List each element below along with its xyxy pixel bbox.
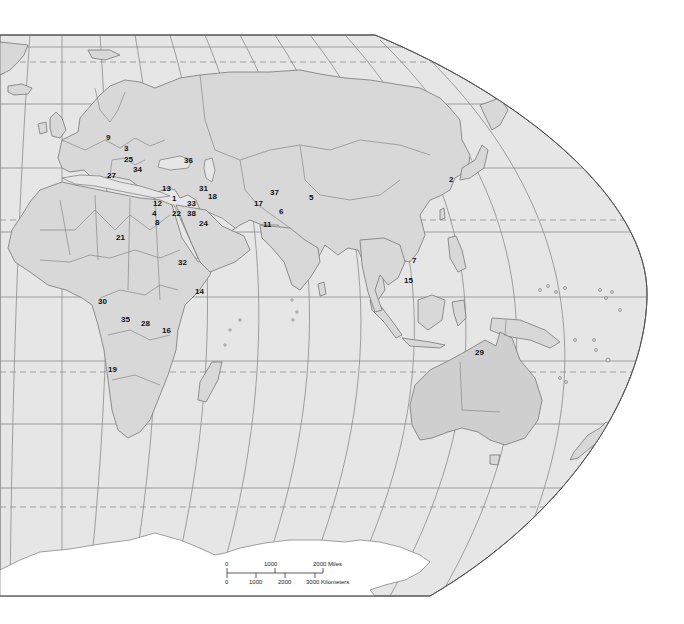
map-label-5: 5 [309, 193, 314, 202]
map-label-16: 16 [162, 326, 171, 335]
scale-km-2000: 2000 [278, 579, 292, 585]
map-label-31: 31 [199, 184, 208, 193]
scale-km-3000: 3000 Kilometers [306, 579, 349, 585]
map-label-36: 36 [184, 156, 193, 165]
map-label-28: 28 [141, 319, 150, 328]
map-label-21: 21 [116, 233, 125, 242]
ireland-landmass [38, 122, 47, 134]
map-label-32: 32 [178, 258, 187, 267]
map-label-24: 24 [199, 219, 208, 228]
map-label-13: 13 [162, 184, 171, 193]
taiwan-landmass [440, 208, 445, 220]
map-label-11: 11 [263, 220, 272, 229]
map-label-34: 34 [133, 165, 142, 174]
map-label-17: 17 [254, 199, 263, 208]
map-label-9: 9 [106, 133, 111, 142]
map-label-18: 18 [208, 192, 217, 201]
map-label-4: 4 [152, 209, 157, 218]
map-label-3: 3 [124, 144, 129, 153]
map-label-7: 7 [412, 256, 417, 265]
scale-miles-1000: 1000 [264, 561, 278, 567]
map-label-8: 8 [155, 218, 160, 227]
map-label-15: 15 [404, 276, 413, 285]
map-label-29: 29 [475, 348, 484, 357]
world-map: 1 2 3 4 5 6 7 8 9 11 12 13 14 15 16 17 1… [0, 0, 684, 624]
map-label-14: 14 [195, 287, 204, 296]
map-label-30: 30 [98, 297, 107, 306]
map-label-35: 35 [121, 315, 130, 324]
scale-km-1000: 1000 [249, 579, 263, 585]
map-label-12: 12 [153, 199, 162, 208]
map-label-25: 25 [124, 155, 133, 164]
map-label-19: 19 [108, 365, 117, 374]
map-label-27: 27 [107, 171, 116, 180]
map-label-22: 22 [172, 209, 181, 218]
map-label-38: 38 [187, 209, 196, 218]
tasmania-landmass [490, 455, 500, 465]
scale-miles-2000: 2000 Miles [313, 561, 342, 567]
map-label-6: 6 [279, 207, 284, 216]
map-label-33: 33 [187, 199, 196, 208]
map-label-37: 37 [270, 188, 279, 197]
map-label-2: 2 [449, 175, 454, 184]
map-label-1: 1 [172, 194, 177, 203]
